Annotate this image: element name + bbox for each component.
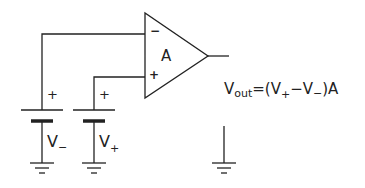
amplifier-label: A [161, 47, 171, 65]
battery-minus-plus-sign: + [47, 87, 58, 102]
output-equation: Vout=(V+−V−)A [224, 80, 338, 98]
battery-plus-plus-sign: + [99, 87, 110, 102]
inverting-sign: − [150, 24, 160, 38]
noninverting-sign: + [149, 68, 159, 82]
battery-plus-label: V+ [99, 132, 119, 151]
battery-minus-label: V− [47, 132, 67, 151]
